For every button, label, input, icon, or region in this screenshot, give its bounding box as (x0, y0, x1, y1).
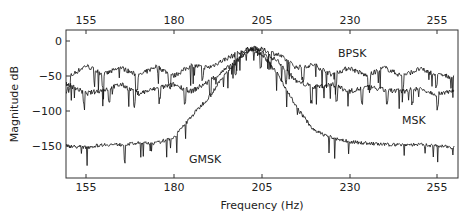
gmsk-label: GMSK (189, 153, 222, 166)
series-layer (65, 46, 454, 165)
top-tick-label: 155 (76, 14, 97, 27)
y-tick-label: −150 (32, 140, 62, 153)
bottom-tick-label: 230 (340, 181, 361, 194)
spectrum-chart: 155 180 205 230 255 155 180 205 230 255 … (0, 0, 469, 218)
y-axis-label: Magnitude dB (8, 66, 21, 142)
y-tick-label: 0 (55, 35, 62, 48)
left-axis: 0 −50 −100 −150 Magnitude dB (8, 35, 70, 153)
bottom-tick-label: 155 (76, 181, 97, 194)
y-tick-label: −50 (39, 70, 62, 83)
bpsk-label: BPSK (338, 47, 367, 60)
top-tick-label: 205 (252, 14, 273, 27)
top-tick-label: 255 (427, 14, 448, 27)
top-tick-label: 180 (164, 14, 185, 27)
top-axis: 155 180 205 230 255 (76, 14, 448, 34)
top-tick-label: 230 (340, 14, 361, 27)
bottom-tick-label: 205 (252, 181, 273, 194)
x-axis-label: Frequency (Hz) (221, 199, 304, 212)
bottom-axis: 155 180 205 230 255 Frequency (Hz) (76, 174, 448, 212)
y-tick-label: −100 (32, 105, 62, 118)
bottom-tick-label: 255 (427, 181, 448, 194)
bottom-tick-label: 180 (164, 181, 185, 194)
msk-label: MSK (402, 114, 426, 127)
series-msk-line (65, 48, 454, 110)
